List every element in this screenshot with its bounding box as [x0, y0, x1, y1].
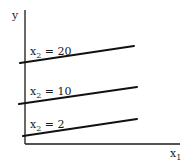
- label-x2-2: x2 = 2: [30, 118, 65, 133]
- x-axis-label: x1: [170, 147, 181, 161]
- diagram-canvas: y x1 x2 = 20 x2 = 10 x2 = 2: [0, 0, 192, 161]
- label-x2-10: x2 = 10: [30, 85, 72, 100]
- y-axis-label: y: [11, 9, 19, 22]
- label-x2-20: x2 = 20: [30, 45, 72, 60]
